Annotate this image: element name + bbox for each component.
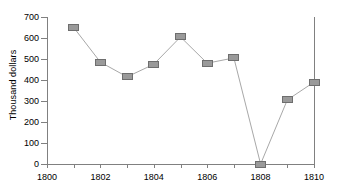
data-point-marker bbox=[148, 61, 159, 68]
data-point-marker bbox=[255, 161, 266, 168]
chart-container: Thousand dollars 0100200300400500600700 … bbox=[0, 0, 338, 196]
data-point-marker bbox=[202, 60, 213, 67]
data-point-marker bbox=[95, 59, 106, 66]
data-point-marker bbox=[228, 54, 239, 61]
data-point-marker bbox=[122, 73, 133, 80]
data-point-marker bbox=[282, 96, 293, 103]
data-point-marker bbox=[309, 79, 320, 86]
data-point-marker bbox=[175, 33, 186, 40]
data-point-marker bbox=[68, 24, 79, 31]
